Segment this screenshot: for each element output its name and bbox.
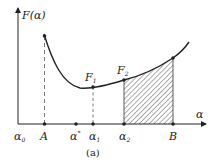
diagram-canvas: F(α) α F1 F2 α0 A α* α1 α2 B (a) bbox=[0, 0, 219, 167]
label-F2: F2 bbox=[116, 64, 129, 77]
label-B: B bbox=[168, 130, 177, 143]
point-B-curve bbox=[171, 56, 175, 60]
dot-A bbox=[43, 122, 47, 126]
dot-alpha1 bbox=[91, 122, 95, 126]
label-alpha0: α0 bbox=[14, 130, 25, 143]
dot-B bbox=[171, 122, 175, 126]
point-start bbox=[43, 34, 47, 38]
label-A: A bbox=[39, 130, 48, 143]
dot-alpha2 bbox=[122, 122, 126, 126]
caption: (a) bbox=[86, 147, 100, 158]
point-F1 bbox=[91, 85, 95, 89]
label-alpha2: α2 bbox=[119, 130, 130, 143]
shaded-region bbox=[124, 58, 173, 124]
x-axis-label: α bbox=[196, 108, 204, 121]
label-F1: F1 bbox=[84, 71, 96, 84]
label-alpha1: α1 bbox=[89, 130, 100, 143]
label-alpha-star: α* bbox=[70, 129, 80, 143]
point-F2 bbox=[122, 78, 126, 82]
y-axis-label: F(α) bbox=[21, 9, 46, 22]
dot-alpha-star bbox=[74, 122, 78, 126]
